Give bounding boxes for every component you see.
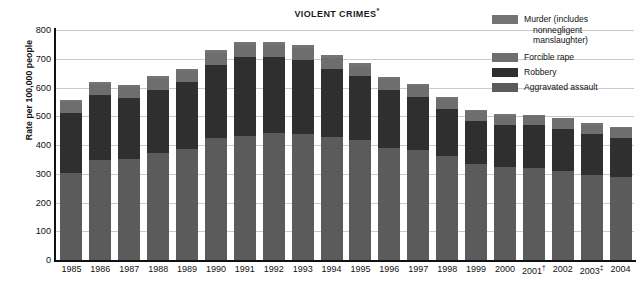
bar-segment [118, 98, 140, 159]
bar-segment [292, 60, 314, 134]
bar-segment [407, 84, 429, 86]
legend-label-murder-line3: manslaughter) [533, 35, 642, 46]
bar-segment [321, 55, 343, 58]
bar-segment [552, 129, 574, 171]
bar-segment [292, 48, 314, 60]
legend-label-robbery: Robbery [524, 67, 642, 78]
bar-segment [378, 79, 400, 89]
bar-segment [60, 100, 82, 102]
bar-segment [610, 177, 632, 260]
bar-segment [147, 90, 169, 154]
legend-label-murder-line1: Murder (includes [524, 14, 588, 24]
legend-swatch-robbery [492, 68, 518, 77]
y-tick-label: 400 [36, 140, 51, 150]
bar-segment [494, 167, 516, 260]
bar-segment [263, 133, 285, 260]
bar-segment [234, 136, 256, 260]
bar-segment [465, 164, 487, 260]
bar-segment [292, 134, 314, 261]
bar-segment [494, 116, 516, 125]
bar-segment [581, 125, 603, 134]
bar-segment [552, 171, 574, 260]
bar-segment [378, 77, 400, 79]
bar-segment [89, 160, 111, 260]
bar-segment [465, 111, 487, 120]
bar-segment [581, 134, 603, 175]
legend-swatch-forcible-rape [492, 53, 518, 62]
y-tick-label: 600 [36, 83, 51, 93]
bar-segment [436, 99, 458, 109]
legend-label-aggravated-assault: Aggravated assault [524, 82, 642, 93]
bar-segment [523, 115, 545, 117]
bar-segment [378, 148, 400, 260]
bar-segment [552, 118, 574, 120]
bar-segment [176, 69, 198, 72]
bar-segment [465, 121, 487, 164]
y-tick-label: 100 [36, 226, 51, 236]
y-tick-label: 300 [36, 169, 51, 179]
bar-segment [581, 175, 603, 260]
legend-label-murder-line2: nonnegligent [533, 25, 642, 36]
bar-segment [234, 42, 256, 45]
legend-item-forcible-rape[interactable]: Forcible rape [492, 52, 642, 64]
legend-item-murder[interactable]: Murder (includesnonnegligentmanslaughter… [492, 14, 642, 46]
chart-page: VIOLENT CRIMES* Rate per 100,000 people … [0, 0, 644, 286]
bar-segment [523, 116, 545, 125]
bar-segment [321, 58, 343, 69]
bar-segment [263, 45, 285, 57]
bar-segment [89, 95, 111, 160]
bar-segment [349, 140, 371, 260]
y-axis-label: Rate per 100,000 people [24, 5, 34, 175]
legend-item-aggravated-assault[interactable]: Aggravated assault [492, 82, 642, 94]
bar-segment [263, 42, 285, 45]
legend-label-forcible-rape: Forcible rape [524, 52, 642, 63]
bar-segment [176, 82, 198, 149]
bar-segment [205, 65, 227, 139]
bar-segment [349, 63, 371, 65]
bar-segment [118, 85, 140, 87]
bar-segment [147, 79, 169, 90]
bar-segment [494, 125, 516, 167]
bar-segment [321, 137, 343, 260]
bar-segment [60, 102, 82, 113]
legend-label-murder: Murder (includesnonnegligentmanslaughter… [524, 14, 642, 46]
bar-segment [176, 71, 198, 82]
bar-segment [205, 138, 227, 260]
chart-title-text: VIOLENT CRIMES [294, 9, 376, 19]
y-tick-label: 200 [36, 198, 51, 208]
bar-segment [292, 45, 314, 48]
bar-segment [205, 50, 227, 53]
chart-legend: Murder (includesnonnegligentmanslaughter… [492, 14, 642, 97]
bar-segment [89, 82, 111, 85]
bar-segment [494, 114, 516, 116]
bar-segment [436, 156, 458, 260]
bar-segment [581, 123, 603, 125]
bar-segment [147, 76, 169, 78]
bar-segment [349, 76, 371, 140]
bar-segment [610, 128, 632, 137]
bar-segment [176, 149, 198, 260]
x-axis-line [54, 260, 636, 262]
bar-segment [147, 153, 169, 260]
bar-segment [523, 125, 545, 168]
bar-segment [118, 87, 140, 98]
bar-segment [407, 86, 429, 96]
bar-segment [436, 97, 458, 99]
bar-segment [234, 57, 256, 135]
legend-item-robbery[interactable]: Robbery [492, 67, 642, 79]
y-tick-label: 700 [36, 54, 51, 64]
bar-segment [552, 119, 574, 128]
legend-swatch-murder [492, 15, 518, 24]
bar-segment [89, 84, 111, 95]
bar-segment [60, 173, 82, 260]
bar-segment [118, 159, 140, 260]
legend-swatch-aggravated-assault [492, 83, 518, 92]
bar-segment [523, 168, 545, 260]
chart-title-superscript: * [376, 7, 379, 14]
x-tick-label: 2004 [599, 264, 643, 274]
y-tick-label: 800 [36, 25, 51, 35]
y-tick-label: 500 [36, 111, 51, 121]
bar-segment [263, 57, 285, 133]
bar-segment [349, 66, 371, 77]
bar-segment [60, 113, 82, 173]
